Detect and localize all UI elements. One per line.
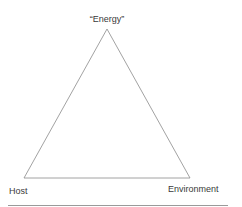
vertex-label-host: Host xyxy=(9,186,28,196)
vertex-label-environment: Environment xyxy=(168,184,219,194)
vertex-label-energy: “Energy” xyxy=(86,14,128,24)
triangle-diagram: “Energy” Host Environment xyxy=(0,0,242,207)
triangle-outline xyxy=(24,29,190,178)
triangle-shape xyxy=(0,0,242,207)
